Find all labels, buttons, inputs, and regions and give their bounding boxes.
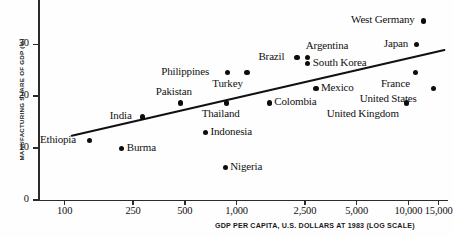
data-point-label: Japan bbox=[384, 37, 408, 49]
data-point[interactable] bbox=[140, 114, 145, 119]
data-point-label: Colombia bbox=[274, 95, 316, 107]
data-point-label: South Korea bbox=[313, 56, 367, 68]
data-point-label: France bbox=[381, 77, 410, 89]
scatter-chart: 0102030 1002505001,0002,5005,00010,00015… bbox=[0, 0, 453, 237]
data-point-label: United Kingdom bbox=[327, 107, 399, 119]
data-point[interactable] bbox=[178, 100, 183, 105]
data-point-label: India bbox=[110, 109, 132, 121]
data-point-label: Mexico bbox=[321, 81, 354, 93]
data-point[interactable] bbox=[244, 70, 249, 75]
data-point-label: Ethiopia bbox=[40, 133, 76, 145]
data-point-label: United States bbox=[360, 92, 417, 104]
data-point-label: West Germany bbox=[351, 13, 415, 25]
data-point-label: Pakistan bbox=[156, 85, 192, 97]
data-point[interactable] bbox=[224, 100, 229, 105]
data-point-label: Argentina bbox=[306, 39, 348, 51]
data-point[interactable] bbox=[294, 55, 299, 60]
data-point[interactable] bbox=[267, 100, 272, 105]
data-point[interactable] bbox=[119, 146, 124, 151]
data-point-label: Turkey bbox=[212, 77, 242, 89]
data-point-label: Brazil bbox=[258, 50, 284, 62]
data-point-label: Philippines bbox=[161, 65, 209, 77]
data-point[interactable] bbox=[313, 86, 318, 91]
data-point-label: Burma bbox=[127, 141, 156, 153]
data-point-label: Nigeria bbox=[230, 160, 262, 172]
data-point[interactable] bbox=[421, 18, 426, 23]
data-point-label: Indonesia bbox=[210, 125, 251, 137]
data-point-label: Thailand bbox=[202, 107, 240, 119]
